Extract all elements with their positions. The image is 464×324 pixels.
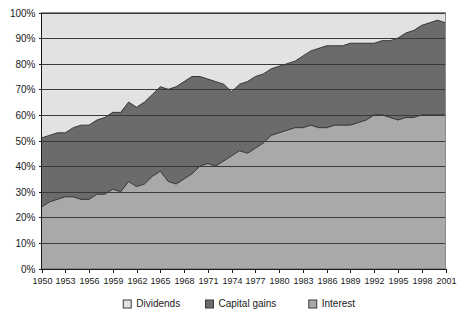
y-tick-label: 40% xyxy=(15,161,35,172)
x-tick-label: 1956 xyxy=(79,276,99,286)
y-tick-label: 60% xyxy=(15,110,35,121)
y-tick-label: 80% xyxy=(15,59,35,70)
chart-container: 0%10%20%30%40%50%60%70%80%90%100% 195019… xyxy=(0,0,464,324)
y-tick-label: 50% xyxy=(15,136,35,147)
y-tick-label: 0% xyxy=(21,264,36,275)
x-tick-label: 1977 xyxy=(245,276,265,286)
x-tick-label: 1974 xyxy=(222,276,242,286)
x-tick-label: 1992 xyxy=(364,276,384,286)
x-tick-label: 1995 xyxy=(388,276,408,286)
x-tick-label: 2001 xyxy=(436,276,456,286)
x-tick-label: 1980 xyxy=(269,276,289,286)
x-tick-label: 1959 xyxy=(103,276,123,286)
legend-label-capital-gains: Capital gains xyxy=(219,298,277,309)
y-axis-group: 0%10%20%30%40%50%60%70%80%90%100% xyxy=(10,8,42,275)
x-tick-label: 1998 xyxy=(412,276,432,286)
x-axis-group: 1950195319561959196219651968197119741977… xyxy=(32,269,456,286)
legend-label-interest: Interest xyxy=(322,298,356,309)
x-tick-label: 1950 xyxy=(32,276,52,286)
y-tick-label: 100% xyxy=(10,8,36,19)
legend-swatch-interest xyxy=(309,300,317,308)
legend-swatch-dividends xyxy=(123,300,131,308)
x-tick-label: 1971 xyxy=(198,276,218,286)
x-tick-label: 1986 xyxy=(317,276,337,286)
y-tick-label: 20% xyxy=(15,212,35,223)
x-tick-label: 1983 xyxy=(293,276,313,286)
x-tick-label: 1965 xyxy=(150,276,170,286)
y-tick-label: 70% xyxy=(15,84,35,95)
legend-swatch-capital-gains xyxy=(206,300,214,308)
x-tick-label: 1953 xyxy=(55,276,75,286)
x-tick-label: 1989 xyxy=(340,276,360,286)
x-tick-label: 1962 xyxy=(127,276,147,286)
y-tick-label: 30% xyxy=(15,187,35,198)
x-tick-label: 1968 xyxy=(174,276,194,286)
stacked-area-chart: 0%10%20%30%40%50%60%70%80%90%100% 195019… xyxy=(0,0,464,324)
legend-label-dividends: Dividends xyxy=(136,298,180,309)
y-tick-label: 10% xyxy=(15,238,35,249)
chart-legend: DividendsCapital gainsInterest xyxy=(123,298,355,309)
y-tick-label: 90% xyxy=(15,33,35,44)
